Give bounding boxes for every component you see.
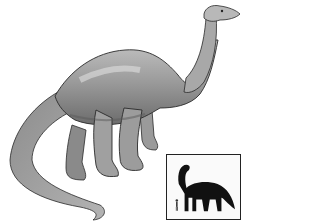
human-figure bbox=[176, 199, 179, 210]
hind-leg-far bbox=[66, 125, 86, 180]
eye bbox=[221, 10, 223, 12]
dinosaur-silhouette bbox=[178, 165, 235, 212]
neck bbox=[184, 14, 217, 93]
size-comparison-inset bbox=[166, 154, 241, 220]
head bbox=[204, 5, 240, 21]
